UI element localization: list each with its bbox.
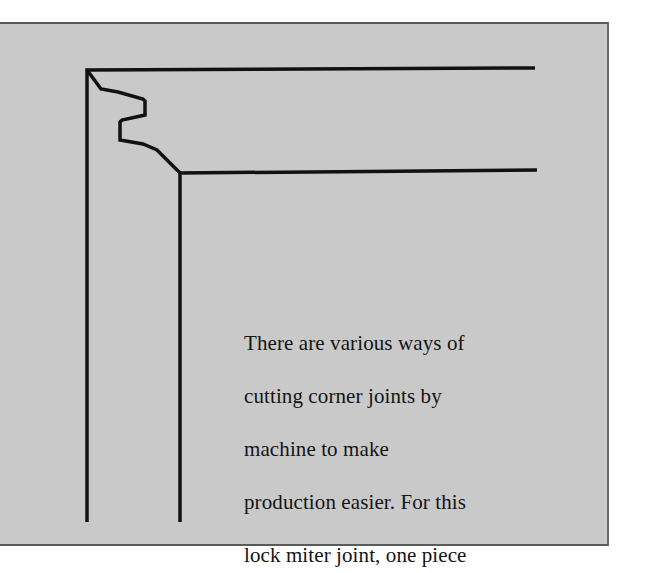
caption-line: lock miter joint, one piece	[244, 542, 544, 568]
lock-miter-profile	[87, 70, 180, 173]
caption-text: There are various ways of cutting corner…	[244, 304, 544, 573]
caption-line: There are various ways of	[244, 330, 544, 356]
caption-line: cutting corner joints by	[244, 383, 544, 409]
caption-line: machine to make	[244, 436, 544, 462]
caption-line: production easier. For this	[244, 489, 544, 515]
